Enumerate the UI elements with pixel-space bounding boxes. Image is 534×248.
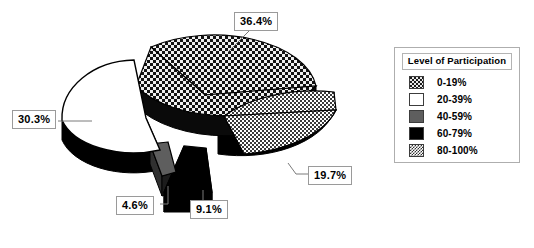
- data-label-19-7: 19.7%: [308, 166, 352, 185]
- legend-item-0-19: 0-19%: [395, 74, 519, 91]
- legend-label-40-59: 40-59%: [437, 111, 472, 122]
- legend-title: Level of Participation: [402, 53, 512, 70]
- legend-swatch-20-39-icon: [409, 93, 424, 106]
- legend-item-20-39: 20-39%: [395, 91, 519, 108]
- legend-item-40-59: 40-59%: [395, 108, 519, 125]
- legend-label-20-39: 20-39%: [437, 94, 472, 105]
- data-label-36-4: 36.4%: [234, 12, 278, 31]
- legend-item-80-100: 80-100%: [395, 142, 519, 159]
- legend-swatch-0-19-icon: [409, 76, 424, 89]
- chart-legend: Level of Participation 0-19% 20-39% 40-5…: [394, 47, 520, 163]
- data-label-30-3: 30.3%: [12, 110, 56, 129]
- leader-line-19-7: [288, 163, 308, 174]
- legend-item-60-79: 60-79%: [395, 125, 519, 142]
- legend-swatch-40-59-icon: [409, 110, 424, 123]
- legend-swatch-60-79-icon: [409, 127, 424, 140]
- data-label-9-1: 9.1%: [190, 200, 228, 219]
- pie-chart-figure: 36.4% 19.7% 9.1% 4.6% 30.3% Level of Par…: [0, 0, 534, 248]
- legend-label-60-79: 60-79%: [437, 128, 472, 139]
- data-label-4-6: 4.6%: [116, 196, 154, 215]
- legend-label-80-100: 80-100%: [437, 145, 478, 156]
- legend-label-0-19: 0-19%: [437, 77, 466, 88]
- legend-swatch-80-100-icon: [409, 144, 424, 157]
